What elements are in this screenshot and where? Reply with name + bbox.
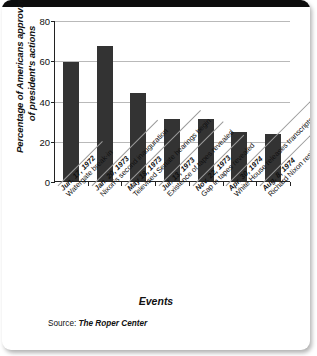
gridline-40 <box>54 102 290 103</box>
y-tick-mark-40 <box>51 102 55 103</box>
y-tick-label-20: 20 <box>39 136 50 147</box>
gridline-80 <box>54 21 290 22</box>
source-name: The Roper Center <box>79 319 148 328</box>
y-tick-mark-80 <box>51 21 55 22</box>
scan-top-band <box>2 0 310 7</box>
figure-card: Percentage of Americans approving of pre… <box>2 0 310 350</box>
gridline-60 <box>54 61 290 62</box>
bar <box>63 62 79 181</box>
y-tick-mark-60 <box>51 61 55 62</box>
bar-chart: Percentage of Americans approving of pre… <box>2 7 310 350</box>
y-tick-label-80: 80 <box>39 16 50 27</box>
y-tick-label-60: 60 <box>39 56 50 67</box>
x-axis-labels: Jun. 17, 1972Watergate break-inJan. 20, … <box>54 183 304 289</box>
source-note: Source: The Roper Center <box>48 319 147 328</box>
x-axis-title: Events <box>2 295 310 307</box>
y-tick-label-40: 40 <box>39 96 50 107</box>
y-axis-title: Percentage of Americans approving of pre… <box>14 0 37 154</box>
y-tick-label-0: 0 <box>45 177 50 188</box>
y-tick-mark-20 <box>51 142 55 143</box>
source-label: Source: <box>48 319 76 328</box>
